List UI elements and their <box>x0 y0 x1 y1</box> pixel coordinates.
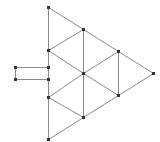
edge-C-E <box>49 51 84 74</box>
node-D <box>117 50 120 53</box>
edge-H-I <box>84 96 119 118</box>
edge-E-D <box>84 52 119 74</box>
node-N <box>47 78 50 81</box>
node-M <box>14 78 17 81</box>
node-A <box>47 6 50 9</box>
edge-F-H <box>119 74 154 96</box>
edge-G-I <box>49 98 84 118</box>
graph-diagram <box>0 0 160 142</box>
nodes-group <box>14 6 155 141</box>
node-G <box>47 96 50 99</box>
node-K <box>14 66 17 69</box>
node-I <box>82 116 85 119</box>
edge-E-H <box>84 74 119 96</box>
node-L <box>47 66 50 69</box>
node-F <box>152 72 155 75</box>
node-J <box>47 138 50 141</box>
edge-D-F <box>119 52 154 74</box>
node-E <box>82 72 85 75</box>
node-H <box>117 94 120 97</box>
edge-E-G <box>49 74 84 98</box>
edge-I-J <box>49 118 84 140</box>
edge-B-C <box>49 30 84 51</box>
node-B <box>82 28 85 31</box>
node-C <box>47 49 50 52</box>
edge-B-D <box>84 30 119 52</box>
edge-A-B <box>49 8 84 30</box>
